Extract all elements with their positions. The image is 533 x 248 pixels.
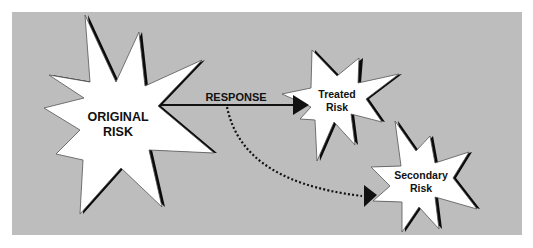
secondary-risk-label-line1: Secondary [394,169,448,181]
original-risk-label-line1: ORIGINAL [87,110,148,124]
secondary-risk-label-line2: Risk [410,182,432,194]
original-risk-label-line2: RISK [103,125,133,139]
treated-risk-label-line2: Risk [326,101,348,113]
risk-response-diagram: ORIGINAL RISK Treated Risk Secondary Ris… [0,0,533,248]
response-label: RESPONSE [205,91,266,103]
treated-risk-label-line1: Treated [318,88,355,100]
